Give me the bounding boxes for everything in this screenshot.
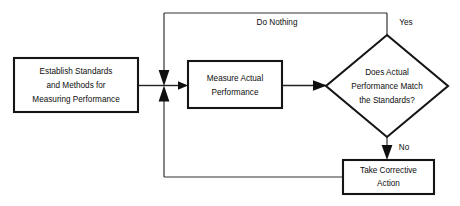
- arrowhead-down-into-junction: [159, 70, 170, 86]
- edge-label-yes: Yes: [399, 18, 412, 27]
- node-corrective-action-line-1: Take Corrective: [360, 166, 417, 175]
- node-establish-standards-line-1: Establish Standards: [40, 67, 113, 76]
- node-decision-match-line-3: the Standards?: [359, 96, 415, 105]
- edge-label-do-nothing: Do Nothing: [257, 18, 298, 27]
- flowchart-canvas: Establish Standards and Methods for Meas…: [0, 0, 460, 206]
- node-decision-match-line-2: Performance Match: [351, 82, 423, 91]
- arrowhead-up-into-junction: [159, 86, 170, 102]
- node-corrective-action-line-2: Action: [377, 179, 400, 188]
- node-establish-standards-line-3: Measuring Performance: [32, 95, 120, 104]
- arrowhead-into-measure: [178, 81, 188, 90]
- arrowhead-into-corrective: [382, 145, 393, 160]
- edge-label-no: No: [399, 143, 410, 152]
- node-measure-performance[interactable]: [188, 61, 282, 108]
- node-measure-performance-line-1: Measure Actual: [207, 74, 264, 83]
- node-decision-match-line-1: Does Actual: [365, 68, 409, 77]
- node-establish-standards-line-2: and Methods for: [46, 81, 105, 90]
- arrowhead-into-decision: [313, 80, 327, 90]
- node-measure-performance-line-2: Performance: [212, 88, 259, 97]
- flowchart-svg: Establish Standards and Methods for Meas…: [0, 0, 460, 206]
